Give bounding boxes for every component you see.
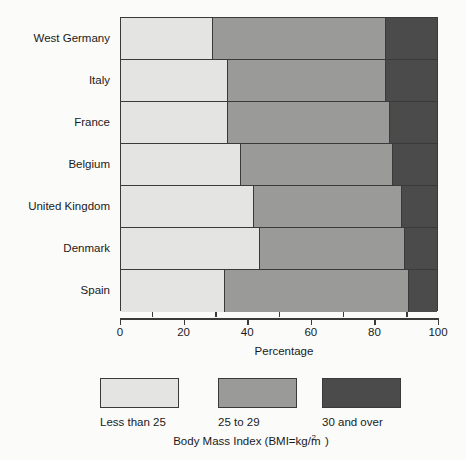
legend-caption-suffix: )	[325, 435, 329, 447]
bar-segment	[386, 18, 437, 59]
bar-segment	[260, 228, 405, 269]
x-axis-tick-label: 100	[428, 326, 447, 338]
bar-segment	[386, 60, 437, 101]
x-axis-tick-minor	[152, 312, 153, 317]
bar-segment	[241, 144, 393, 185]
legend-item-25-to-29: 25 to 29	[218, 378, 297, 428]
legend-caption-prefix: Body Mass Index (BMI=kg/m	[173, 435, 320, 447]
x-axis-tick-major	[120, 318, 121, 325]
bar-segment	[121, 102, 228, 143]
legend-label-25-to-29: 25 to 29	[218, 416, 297, 428]
legend-swatch-25-to-29	[218, 378, 297, 408]
legend-swatch-30-and-over	[322, 378, 401, 408]
bar-segment	[390, 102, 437, 143]
legend-label-30-and-over: 30 and over	[322, 416, 401, 428]
legend-item-less-than-25: Less than 25	[100, 378, 179, 428]
bar-row	[121, 186, 437, 228]
bar-segment	[121, 144, 241, 185]
bar-segment	[225, 270, 408, 312]
category-label: United Kingdom	[0, 200, 110, 212]
x-axis-title: Percentage	[0, 345, 466, 357]
legend-label-less-than-25: Less than 25	[100, 416, 179, 428]
bar-segment	[121, 186, 254, 227]
x-axis-title-text: Percentage	[255, 345, 314, 357]
category-label: Italy	[0, 74, 110, 86]
bar-segment	[121, 60, 228, 101]
bar-segment	[254, 186, 403, 227]
x-axis-tick-minor	[279, 312, 280, 317]
bar-segment	[213, 18, 387, 59]
bar-row	[121, 228, 437, 270]
category-label: Belgium	[0, 158, 110, 170]
bar-segment	[228, 102, 389, 143]
legend-item-30-and-over: 30 and over	[322, 378, 401, 428]
bar-row	[121, 60, 437, 102]
bar-segment	[402, 186, 437, 227]
legend-swatch-less-than-25	[100, 378, 179, 408]
x-axis: 020406080100	[120, 318, 438, 320]
bar-segment	[228, 60, 386, 101]
x-axis-tick-minor	[215, 312, 216, 317]
bar-row	[121, 144, 437, 186]
plot-area	[120, 17, 438, 311]
category-label: West Germany	[0, 32, 110, 44]
x-axis-tick-label: 0	[117, 326, 123, 338]
bar-segment	[409, 270, 437, 312]
x-axis-tick-minor	[406, 312, 407, 317]
category-label: France	[0, 116, 110, 128]
category-label: Spain	[0, 284, 110, 296]
category-label: Denmark	[0, 242, 110, 254]
legend-caption: Body Mass Index (BMI=kg/m2)	[0, 433, 466, 447]
bar-row	[121, 18, 437, 60]
x-axis-tick-major	[247, 318, 248, 325]
bar-segment	[405, 228, 437, 269]
x-axis-tick-label: 80	[368, 326, 381, 338]
legend: Less than 25 25 to 29 30 and over	[0, 378, 466, 428]
x-axis-tick-label: 20	[177, 326, 190, 338]
x-axis-tick-major	[374, 318, 375, 325]
x-axis-tick-label: 40	[241, 326, 254, 338]
x-axis-tick-minor	[343, 312, 344, 317]
x-axis-tick-major	[184, 318, 185, 325]
bar-segment	[121, 228, 260, 269]
bar-segment	[121, 18, 213, 59]
bmi-stacked-bar-chart: West GermanyItalyFranceBelgiumUnited Kin…	[0, 0, 466, 460]
bar-row	[121, 270, 437, 312]
bar-segment	[393, 144, 437, 185]
bar-row	[121, 102, 437, 144]
bar-segment	[121, 270, 225, 312]
x-axis-tick-major	[438, 318, 439, 325]
x-axis-tick-label: 60	[304, 326, 317, 338]
x-axis-tick-major	[311, 318, 312, 325]
legend-caption-text: Body Mass Index (BMI=kg/m2)	[164, 435, 320, 447]
